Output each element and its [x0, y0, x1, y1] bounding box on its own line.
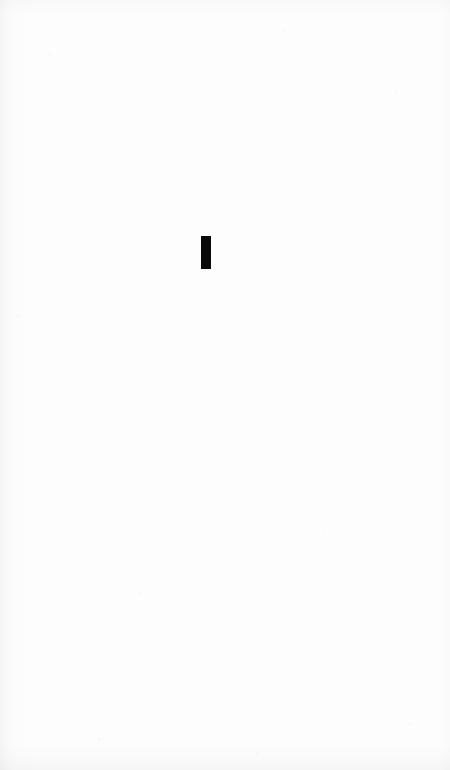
paper-texture: [0, 0, 450, 770]
part-number: I: [201, 232, 211, 272]
scanned-page: I: [0, 0, 450, 770]
paper-noise: [0, 0, 450, 770]
